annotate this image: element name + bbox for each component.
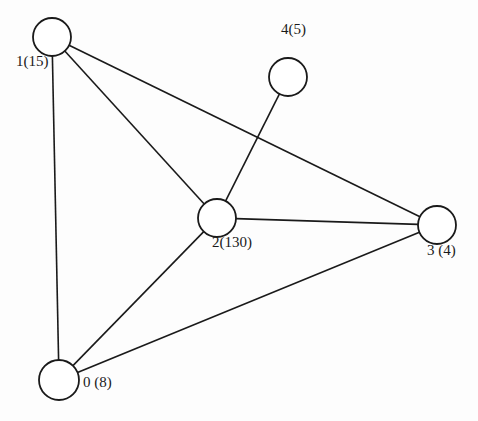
edge-1-2 xyxy=(65,51,204,204)
graph-diagram: 0 (8) 1(15) 2(130) 3 (4) 4(5) xyxy=(0,0,478,421)
node-2 xyxy=(198,199,236,237)
edges-layer xyxy=(52,45,420,372)
edge-2-0 xyxy=(73,232,204,366)
node-1 xyxy=(33,18,71,56)
edge-0-3 xyxy=(78,232,420,372)
edge-1-3 xyxy=(69,45,420,216)
node-label-2: 2(130) xyxy=(212,235,252,250)
node-label-4: 4(5) xyxy=(281,22,306,37)
edge-4-2 xyxy=(226,94,280,201)
node-label-3: 3 (4) xyxy=(427,243,456,258)
node-label-0: 0 (8) xyxy=(83,375,112,390)
edge-2-3 xyxy=(236,219,418,225)
node-4 xyxy=(269,58,307,96)
edge-1-0 xyxy=(52,56,58,360)
node-label-1: 1(15) xyxy=(16,54,49,69)
graph-canvas xyxy=(0,0,478,421)
node-0 xyxy=(39,360,79,400)
node-3 xyxy=(418,206,456,244)
